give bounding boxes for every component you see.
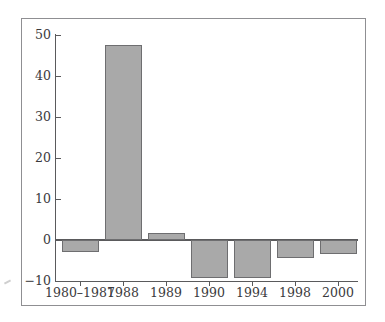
y-tick-10	[55, 199, 61, 200]
y-tick-label-40: 40	[21, 70, 51, 83]
y-tick-20	[55, 158, 61, 159]
y-tick-label-50-wrap: 50	[15, 29, 51, 41]
bar-1989	[148, 233, 185, 240]
y-tick-label-20: 20	[21, 152, 51, 165]
y-tick-label-0: 0	[21, 234, 51, 247]
y-tick-label-30-wrap: 30	[15, 111, 51, 123]
bar-1994	[234, 240, 271, 278]
x-axis-line	[55, 281, 358, 282]
y-tick-label-20-wrap: 20	[15, 152, 51, 164]
y-tick-label-50: 50	[21, 29, 51, 42]
x-tick-label-2000: 2000	[313, 287, 363, 300]
y-tick-label-10: 10	[21, 193, 51, 206]
bar-1988	[105, 45, 142, 240]
bar-1998	[277, 240, 314, 258]
y-tick-30	[55, 117, 61, 118]
bar-1990	[191, 240, 228, 278]
bar-chart-plot-area: 50 40 30 20 10 0 −10 1980–1987 1988 1989…	[0, 0, 385, 322]
y-tick-50	[55, 35, 61, 36]
bar-1980-1987	[62, 240, 99, 252]
bar-2000	[320, 240, 357, 254]
y-tick-40	[55, 76, 61, 77]
y-tick-label-10-wrap: 10	[15, 193, 51, 205]
y-tick-label-40-wrap: 40	[15, 70, 51, 82]
y-tick-label-0-wrap: 0	[15, 234, 51, 246]
y-tick-label-30: 30	[21, 111, 51, 124]
